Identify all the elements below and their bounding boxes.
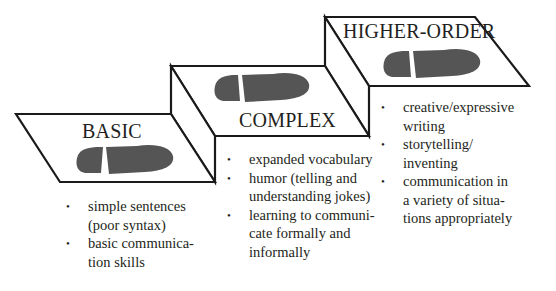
list-item: humor (telling and understanding jokes) — [225, 169, 385, 206]
list-item: basic communica- tion skills — [64, 234, 224, 271]
footprint-icon — [383, 49, 480, 78]
complex-skills-list: expanded vocabulary humor (telling and u… — [225, 150, 385, 261]
list-item: communication in a variety of situa- tio… — [379, 172, 549, 228]
step-title-complex: COMPLEX — [239, 109, 336, 132]
list-item: learning to communi- cate formally and i… — [225, 206, 385, 262]
list-item: expanded vocabulary — [225, 150, 385, 169]
higher-order-skills-list: creative/expressive writing storytelling… — [379, 98, 549, 228]
footprint-icon — [214, 73, 309, 102]
list-item: storytelling/ inventing — [379, 135, 549, 172]
footprint-icon — [76, 145, 173, 174]
basic-skills-list: simple sentences (poor syntax) basic com… — [64, 197, 224, 271]
step-title-higher-order: HIGHER-ORDER — [343, 20, 495, 43]
list-item: simple sentences (poor syntax) — [64, 197, 224, 234]
step-title-basic: BASIC — [82, 120, 142, 143]
list-item: creative/expressive writing — [379, 98, 549, 135]
